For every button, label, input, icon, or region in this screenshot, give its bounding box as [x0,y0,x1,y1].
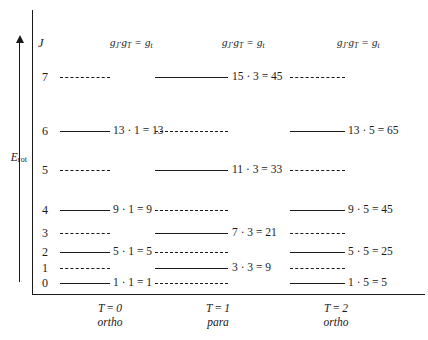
level-value-j5-t1: 11 · 3 = 33 [232,164,282,176]
j-number-0: 0 [38,277,52,289]
t-quantum-number-0: T = 0 [68,301,152,315]
spin-species-0: ortho [68,315,152,329]
g-j-symbol: gJ [110,36,119,48]
level-line-j7-t2-dashed [290,77,345,78]
level-line-j0-t1-dashed [155,283,228,284]
equals-sign: = [131,36,145,48]
level-value-j1-t1: 3 · 3 = 9 [232,262,271,274]
j-number-4: 4 [38,204,52,216]
g-t-symbol: gT [122,36,132,48]
column-footer-1: T = 1para [183,301,253,330]
j-number-6: 6 [38,125,52,137]
level-line-j1-t2-dashed [290,268,345,269]
spin-species-2: ortho [297,315,375,329]
j-number-2: 2 [38,246,52,258]
level-line-j5-t0-dashed [60,170,110,171]
horizontal-axis-line [32,294,425,295]
level-line-j3-t0-dashed [60,233,110,234]
level-line-j5-t1-solid [155,170,228,171]
g-t-symbol: gT [349,36,359,48]
level-value-j0-t0: 1 · 1 = 1 [113,277,152,289]
g-j-symbol: gJ [222,36,231,48]
level-value-j2-t2: 5 · 5 = 25 [348,246,393,258]
energy-axis-label: Erot [0,152,38,164]
column-header-2: gJ·gT = gt [337,36,380,50]
column-footer-0: T = 0ortho [68,301,152,330]
j-quantum-number-heading: J [38,36,44,51]
j-number-5: 5 [38,164,52,176]
level-line-j3-t1-solid [155,233,228,234]
level-line-j3-t2-dashed [290,233,345,234]
equals-sign: = [358,36,372,48]
level-line-j0-t0-solid [60,283,110,284]
column-footer-2: T = 2ortho [297,301,375,330]
g-j-symbol: gJ [337,36,346,48]
level-value-j2-t0: 5 · 1 = 5 [113,246,152,258]
level-line-j6-t2-solid [290,131,345,132]
g-total-symbol: gt [257,36,265,48]
level-line-j4-t2-solid [290,210,345,211]
energy-axis-label-sub: rot [18,155,28,164]
level-line-j2-t1-dashed [155,252,228,253]
level-value-j7-t1: 15 · 3 = 45 [232,71,283,83]
level-value-j3-t1: 7 · 3 = 21 [232,227,277,239]
level-line-j7-t1-solid [155,77,228,78]
level-value-j6-t0: 13 · 1 = 13 [113,125,164,137]
level-value-j0-t2: 1 · 5 = 5 [348,277,387,289]
g-total-symbol: gt [372,36,380,48]
equals-sign: = [243,36,257,48]
level-line-j1-t0-dashed [60,268,110,269]
level-line-j1-t1-solid [155,268,228,269]
j-number-3: 3 [38,227,52,239]
level-line-j6-t1-dashed [155,131,228,132]
energy-axis-label-main: E [11,151,18,163]
column-header-0: gJ·gT = gt [110,36,153,50]
level-line-j5-t2-dashed [290,170,345,171]
j-number-1: 1 [38,262,52,274]
j-number-7: 7 [38,71,52,83]
t-quantum-number-1: T = 1 [183,301,253,315]
level-line-j4-t0-solid [60,210,110,211]
level-value-j4-t0: 9 · 1 = 9 [113,204,152,216]
energy-level-diagram: Erot J gJ·gT = gtgJ·gT = gtgJ·gT = gt 76… [0,0,428,340]
level-line-j7-t0-dashed [60,77,110,78]
level-line-j6-t0-solid [60,131,110,132]
g-t-symbol: gT [234,36,244,48]
level-value-j6-t2: 13 · 5 = 65 [348,125,399,137]
spin-species-1: para [183,315,253,329]
t-quantum-number-2: T = 2 [297,301,375,315]
level-line-j2-t0-solid [60,252,110,253]
level-line-j2-t2-solid [290,252,345,253]
level-value-j4-t2: 9 · 5 = 45 [348,204,393,216]
g-total-symbol: gt [145,36,153,48]
column-header-1: gJ·gT = gt [222,36,265,50]
level-line-j4-t1-dashed [155,210,228,211]
level-line-j0-t2-solid [290,283,345,284]
